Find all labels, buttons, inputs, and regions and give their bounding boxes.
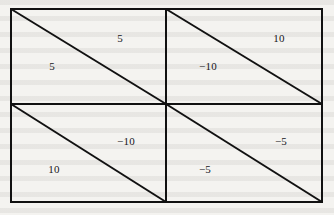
value-bottom-right-cell-lower-triangle: −5 — [199, 164, 211, 175]
value-top-right-cell-upper-triangle: 10 — [273, 33, 284, 44]
diagonal-line-bottom-left-cell — [11, 104, 166, 202]
value-bottom-left-cell-lower-triangle: 10 — [48, 164, 59, 175]
value-top-right-cell-lower-triangle: −10 — [199, 61, 217, 72]
diagonal-line-bottom-right-cell — [166, 104, 322, 202]
diagonal-line-top-left-cell — [11, 9, 166, 104]
diagonal-line-top-right-cell — [166, 9, 322, 104]
value-top-left-cell-upper-triangle: 5 — [117, 33, 123, 44]
value-bottom-left-cell-upper-triangle: −10 — [117, 136, 135, 147]
value-bottom-right-cell-upper-triangle: −5 — [275, 136, 287, 147]
value-top-left-cell-lower-triangle: 5 — [49, 61, 55, 72]
figure-root: 5 5 10 −10 −10 10 −5 −5 — [0, 0, 334, 215]
